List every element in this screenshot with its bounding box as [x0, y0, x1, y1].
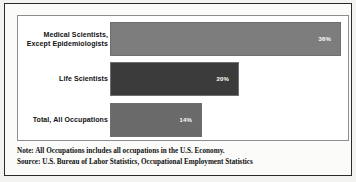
- bar-value-label: 20%: [216, 76, 229, 82]
- footer-source: Source: U.S. Bureau of Labor Statistics,…: [17, 157, 347, 168]
- category-label-line1: Total, All Occupations: [33, 116, 108, 123]
- category-label: Total, All Occupations: [20, 115, 108, 124]
- bar-row: Medical Scientists, Except Epidemiologis…: [18, 19, 348, 59]
- plot-area: Medical Scientists, Except Epidemiologis…: [18, 16, 348, 140]
- bar-row: Total, All Occupations 14%: [18, 100, 348, 140]
- bar-value-label: 14%: [179, 117, 192, 123]
- category-label-line2: Except Epidemiologists: [27, 40, 108, 47]
- footer: Note: All Occupations includes all occup…: [17, 146, 347, 168]
- bar-row: Life Scientists 20%: [18, 59, 348, 99]
- category-label: Medical Scientists, Except Epidemiologis…: [20, 30, 108, 49]
- bar-value-label: 36%: [318, 36, 331, 42]
- category-label: Life Scientists: [20, 74, 108, 83]
- category-label-line1: Life Scientists: [59, 75, 108, 82]
- bar-medical-scientists: 36%: [110, 22, 341, 56]
- plot-frame: Medical Scientists, Except Epidemiologis…: [17, 15, 349, 141]
- bar-life-scientists: 20%: [110, 62, 239, 96]
- outer-frame: Medical Scientists, Except Epidemiologis…: [4, 3, 352, 176]
- category-label-line1: Medical Scientists,: [43, 31, 108, 38]
- chart-screenshot: Medical Scientists, Except Epidemiologis…: [0, 0, 356, 182]
- footer-note: Note: All Occupations includes all occup…: [17, 146, 347, 157]
- bar-total-all-occupations: 14%: [110, 103, 202, 137]
